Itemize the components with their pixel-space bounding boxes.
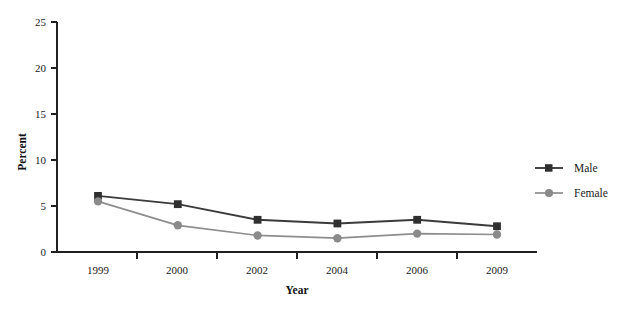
data-point-male-2009[interactable] bbox=[493, 222, 501, 230]
chart-canvas: 0 5 10 15 20 25 Percent 1999 2000 2002 2… bbox=[0, 0, 628, 320]
legend-marker-male bbox=[545, 164, 553, 172]
data-point-male-2004[interactable] bbox=[334, 220, 342, 228]
y-axis-ticks bbox=[51, 22, 57, 252]
series-line-female bbox=[98, 201, 497, 238]
x-tick-label: 2009 bbox=[486, 264, 509, 276]
data-point-male-2006[interactable] bbox=[413, 216, 421, 224]
data-point-female-2000[interactable] bbox=[174, 221, 182, 229]
y-tick-label: 15 bbox=[35, 108, 47, 120]
legend: Male Female bbox=[535, 162, 608, 199]
legend-item-female[interactable]: Female bbox=[535, 187, 608, 199]
legend-item-male[interactable]: Male bbox=[535, 162, 598, 174]
data-point-male-2000[interactable] bbox=[174, 200, 182, 208]
legend-marker-female bbox=[545, 189, 553, 197]
y-tick-label: 0 bbox=[41, 246, 47, 258]
x-tick-label: 2002 bbox=[246, 264, 268, 276]
legend-label-male: Male bbox=[574, 162, 598, 174]
y-tick-label: 10 bbox=[35, 154, 47, 166]
y-tick-label: 5 bbox=[41, 200, 47, 212]
data-point-male-2002[interactable] bbox=[254, 216, 262, 224]
series-line-male bbox=[98, 196, 497, 226]
data-point-female-2004[interactable] bbox=[333, 234, 341, 242]
series-layer bbox=[94, 192, 501, 242]
data-point-female-2006[interactable] bbox=[413, 229, 421, 237]
series-female bbox=[94, 197, 501, 242]
data-point-female-2009[interactable] bbox=[493, 230, 501, 238]
y-axis-title: Percent bbox=[16, 133, 28, 171]
data-point-female-1999[interactable] bbox=[94, 197, 102, 205]
x-axis-ticks bbox=[137, 252, 457, 259]
x-tick-label: 2006 bbox=[406, 264, 429, 276]
legend-label-female: Female bbox=[574, 187, 608, 199]
y-axis-tick-labels: 0 5 10 15 20 25 bbox=[35, 16, 47, 258]
y-tick-label: 20 bbox=[35, 62, 47, 74]
y-tick-label: 25 bbox=[35, 16, 47, 28]
x-axis-tick-labels: 1999 2000 2002 2004 2006 2009 bbox=[87, 264, 509, 276]
data-point-female-2002[interactable] bbox=[253, 231, 261, 239]
x-tick-label: 2000 bbox=[166, 264, 189, 276]
x-tick-label: 2004 bbox=[326, 264, 349, 276]
x-tick-label: 1999 bbox=[87, 264, 110, 276]
series-male bbox=[94, 192, 501, 230]
x-axis-title: Year bbox=[286, 284, 309, 296]
line-chart: 0 5 10 15 20 25 Percent 1999 2000 2002 2… bbox=[0, 0, 628, 320]
